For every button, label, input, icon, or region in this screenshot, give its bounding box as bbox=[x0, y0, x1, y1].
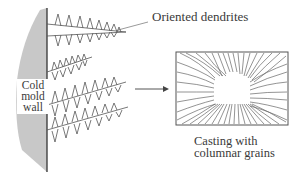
casting-label-line-2: columnar grains bbox=[194, 147, 294, 159]
casting-columnar-grains-label: Casting with columnar grains bbox=[194, 135, 294, 159]
right-arrow-icon bbox=[135, 86, 169, 92]
dendrite-2 bbox=[47, 54, 92, 80]
wall-label-line-3: wall bbox=[19, 102, 47, 113]
dendrite-4 bbox=[47, 103, 128, 142]
casting-grain-box bbox=[176, 52, 288, 125]
dendrite-3 bbox=[47, 77, 126, 116]
oriented-dendrites-label: Oriented dendrites bbox=[152, 10, 248, 23]
cold-mold-wall-label: Cold mold wall bbox=[17, 79, 49, 114]
dendrite-1 bbox=[47, 14, 148, 46]
